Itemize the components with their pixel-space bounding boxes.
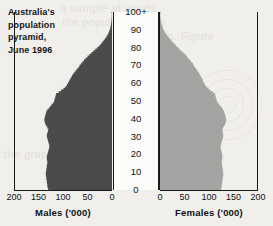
male-axis-baseline <box>14 190 112 191</box>
age-tick-10: 10 <box>113 167 160 177</box>
male-xtick-50: 50 <box>82 192 92 202</box>
male-xtick-200: 200 <box>6 192 21 202</box>
male-xtick-100: 100 <box>55 192 70 202</box>
male-population-bars <box>44 12 112 190</box>
age-tick-60: 60 <box>113 78 160 88</box>
female-xtick-50: 50 <box>179 192 189 202</box>
age-tick-30: 30 <box>113 132 160 142</box>
age-tick-50: 50 <box>113 96 160 106</box>
age-tick-90: 90 <box>113 25 160 35</box>
female-pyramid-area <box>160 12 258 190</box>
male-xtick-0: 0 <box>109 192 114 202</box>
female-axis-right-line <box>257 12 258 190</box>
female-xtick-100: 100 <box>201 192 216 202</box>
male-axis-caption: Males ('000) <box>35 207 91 218</box>
age-tick-80: 80 <box>113 43 160 53</box>
age-tick-40: 40 <box>113 114 160 124</box>
female-xtick-0: 0 <box>157 192 162 202</box>
age-tick-20: 20 <box>113 150 160 160</box>
female-xtick-200: 200 <box>250 192 265 202</box>
male-panel <box>14 12 112 190</box>
male-xtick-150: 150 <box>31 192 46 202</box>
age-tick-100plus: 100+ <box>113 7 160 17</box>
page-background: a sample of words the population were sh… <box>0 0 273 226</box>
population-pyramid-chart: 0102030405060708090100+ 2001501005000501… <box>0 0 273 226</box>
age-axis-strip: 0102030405060708090100+ <box>113 12 160 190</box>
female-population-bars <box>160 12 226 190</box>
female-axis-caption: Females ('000) <box>175 207 243 218</box>
female-axis-baseline <box>160 190 258 191</box>
female-xtick-150: 150 <box>226 192 241 202</box>
age-tick-0: 0 <box>113 185 160 195</box>
male-pyramid-area <box>14 12 112 190</box>
male-axis-left-line <box>14 12 15 190</box>
female-panel <box>160 12 258 190</box>
age-tick-70: 70 <box>113 61 160 71</box>
